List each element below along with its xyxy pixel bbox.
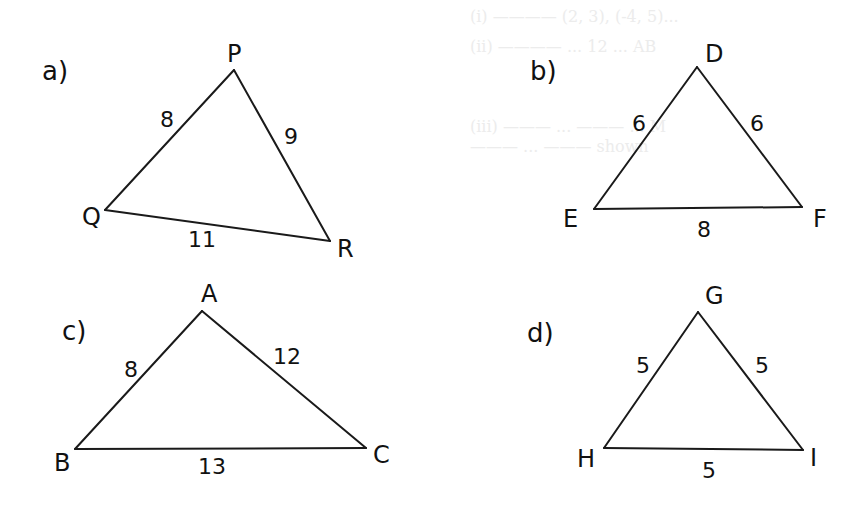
vertex-label-i: I [810, 444, 817, 472]
side-length-ac: 12 [273, 344, 301, 369]
svg-text:(i) ———— (2, 3), (-4, 5)...: (i) ———— (2, 3), (-4, 5)... [470, 7, 679, 26]
vertex-label-h: H [577, 445, 595, 473]
vertex-label-f: F [813, 205, 827, 233]
side-length-df: 6 [750, 111, 764, 136]
side-length-ab: 8 [124, 357, 138, 382]
vertex-label-p: P [227, 40, 241, 68]
svg-text:(ii) ———— ... 12 ... AB: (ii) ———— ... 12 ... AB [470, 37, 656, 56]
side-length-ef: 8 [697, 217, 711, 242]
side-length-gh: 5 [636, 353, 650, 378]
vertex-label-c: C [373, 441, 390, 469]
part-label: c) [62, 316, 86, 346]
vertex-label-q: Q [82, 203, 101, 231]
part-label: a) [42, 56, 68, 86]
part-label: d) [527, 318, 554, 348]
vertex-label-r: R [337, 235, 354, 263]
side-length-qr: 11 [188, 227, 216, 252]
side-length-hi: 5 [702, 458, 716, 483]
side-length-de: 6 [632, 111, 646, 136]
faint-background-text: (i) ———— (2, 3), (-4, 5)... (ii) ———— ..… [0, 0, 866, 519]
part-label: b) [530, 56, 557, 86]
vertex-label-g: G [705, 282, 724, 310]
vertex-label-b: B [54, 449, 70, 477]
vertex-label-a: A [201, 280, 218, 308]
triangles-figure: (i) ———— (2, 3), (-4, 5)... (ii) ———— ..… [0, 0, 866, 519]
side-length-pq: 8 [160, 107, 174, 132]
vertex-label-e: E [563, 205, 578, 233]
side-bc [75, 448, 366, 449]
side-length-pr: 9 [284, 124, 298, 149]
side-length-gi: 5 [755, 353, 769, 378]
side-length-bc: 13 [198, 454, 226, 479]
vertex-label-d: D [705, 40, 723, 68]
svg-text:——— ... ——— shown: ——— ... ——— shown [470, 137, 649, 156]
